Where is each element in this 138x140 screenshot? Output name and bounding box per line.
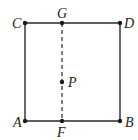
label-d: D — [123, 16, 134, 31]
square-outline — [25, 23, 120, 121]
label-a: A — [12, 115, 22, 130]
point-p — [60, 80, 64, 84]
point-c — [23, 21, 27, 25]
label-g: G — [57, 6, 67, 21]
label-f: F — [56, 125, 66, 140]
label-b: B — [125, 115, 134, 130]
vertex-points — [23, 21, 122, 123]
point-d — [118, 21, 122, 25]
square-diagram: C G D P A B F — [0, 0, 138, 140]
point-g — [60, 21, 64, 25]
label-c: C — [12, 16, 22, 31]
point-f — [60, 119, 64, 123]
point-b — [118, 119, 122, 123]
label-p: P — [67, 75, 77, 90]
point-a — [23, 119, 27, 123]
